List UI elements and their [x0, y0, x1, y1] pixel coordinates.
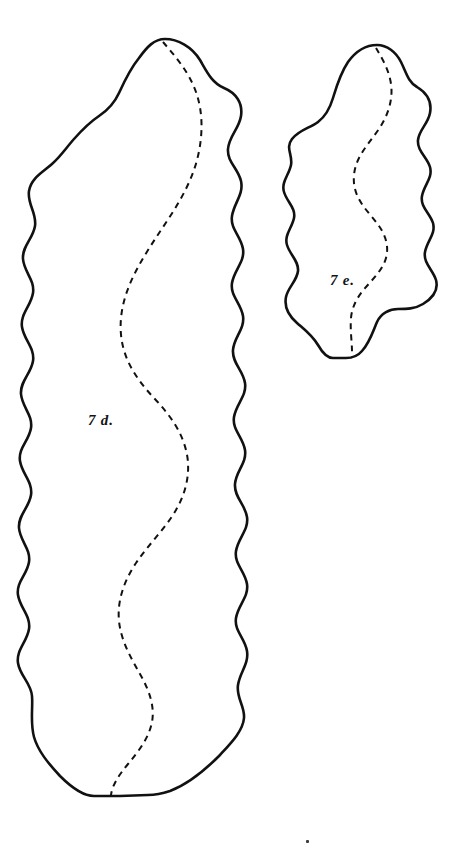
- figure-7e-group: [283, 45, 436, 358]
- large-scalloped-outline: [18, 39, 248, 796]
- figure-label-7d: 7 d.: [88, 412, 114, 429]
- figure-7d-group: [18, 39, 248, 796]
- ink-speck: [306, 840, 309, 843]
- figure-plate: 7 d. 7 e.: [0, 0, 469, 854]
- plate-drawing: [0, 0, 469, 854]
- figure-label-7e: 7 e.: [330, 272, 355, 289]
